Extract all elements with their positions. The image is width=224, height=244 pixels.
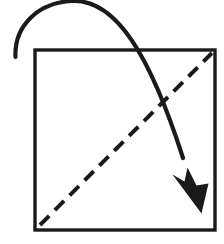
figure-canvas [0,0,224,244]
origami-fold-figure: A square sheet with a dashed diagonal fo… [0,0,224,244]
